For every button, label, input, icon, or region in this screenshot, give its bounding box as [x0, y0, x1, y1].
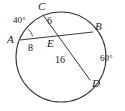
segment-label-ed: 16	[55, 55, 65, 65]
angle-label-40: 40°	[13, 16, 26, 25]
angle-arc-at-a	[28, 29, 33, 36]
point-label-e: E	[47, 38, 54, 49]
segment-label-ce: 6	[47, 16, 52, 26]
segment-label-ae: 8	[28, 43, 33, 53]
angle-label-60: 60°	[100, 54, 113, 63]
point-label-c: C	[38, 1, 45, 12]
point-label-a: A	[7, 34, 14, 45]
point-label-d: D	[92, 78, 100, 89]
circle-geometry-figure: A B C D E 8 6 16 40° 60°	[0, 0, 125, 111]
point-label-b: B	[95, 21, 102, 32]
